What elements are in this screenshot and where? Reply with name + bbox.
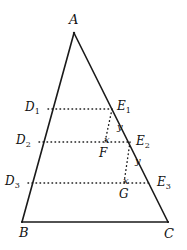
point-label-D2-sub: 2 bbox=[26, 140, 31, 149]
vertex-dot-C bbox=[167, 221, 169, 223]
geometry-figure bbox=[0, 0, 187, 250]
segment-label-y-upper: y bbox=[117, 122, 123, 132]
vertex-label-C: C bbox=[164, 227, 174, 240]
segment-label-x-lower: x bbox=[123, 176, 129, 186]
vertex-dot-A bbox=[73, 32, 75, 34]
vertex-label-B: B bbox=[19, 226, 29, 239]
point-label-D2: D2 bbox=[16, 134, 31, 149]
point-label-D3-base: D bbox=[5, 174, 15, 188]
point-label-E3: E3 bbox=[157, 176, 171, 191]
point-label-F: F bbox=[99, 147, 107, 159]
point-label-E3-sub: 3 bbox=[166, 182, 171, 191]
point-label-E3-base: E bbox=[157, 175, 166, 189]
point-label-D3: D3 bbox=[5, 175, 20, 190]
point-label-D2-base: D bbox=[16, 133, 26, 147]
vertex-label-A: A bbox=[69, 13, 78, 26]
point-label-D3-sub: 3 bbox=[15, 181, 20, 190]
point-label-E1: E1 bbox=[117, 100, 131, 115]
point-label-G: G bbox=[119, 188, 129, 200]
vertex-dot-B bbox=[21, 221, 23, 223]
point-label-D1-base: D bbox=[25, 100, 35, 114]
point-label-D1: D1 bbox=[25, 101, 40, 116]
point-label-E2-base: E bbox=[136, 134, 145, 148]
point-label-E1-base: E bbox=[117, 99, 126, 113]
segment-label-x-upper: x bbox=[104, 135, 110, 145]
point-label-E2: E2 bbox=[136, 135, 150, 150]
point-label-E1-sub: 1 bbox=[126, 106, 131, 115]
segment-label-y-lower: y bbox=[135, 156, 141, 166]
triangle-side-AB bbox=[22, 33, 74, 222]
point-label-D1-sub: 1 bbox=[35, 107, 40, 116]
point-label-E2-sub: 2 bbox=[145, 141, 150, 150]
